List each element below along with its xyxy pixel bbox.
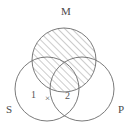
circle-m-hatch-fill xyxy=(30,26,100,96)
set-label-p: P xyxy=(118,104,124,115)
venn-diagram-canvas xyxy=(0,0,134,131)
region-label-1: 1 xyxy=(31,90,36,100)
venn-diagram: M S P 1 2 × xyxy=(0,0,134,131)
x-mark-icon: × xyxy=(45,94,50,103)
region-label-2: 2 xyxy=(65,91,70,101)
set-label-m: M xyxy=(61,6,71,17)
set-label-s: S xyxy=(6,104,12,115)
